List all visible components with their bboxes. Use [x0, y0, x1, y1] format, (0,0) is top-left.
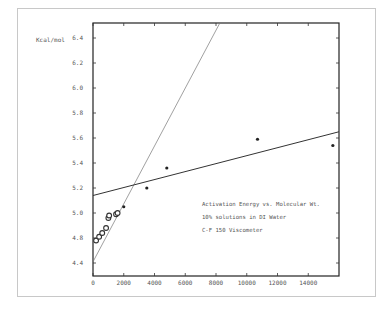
x-tick-label: 2000 [117, 279, 132, 286]
steep-fit-line [93, 23, 220, 262]
y-tick-label: 6.2 [72, 59, 83, 66]
x-tick-label: 12000 [268, 279, 286, 286]
y-tick-label: 5.6 [72, 134, 83, 141]
x-tick-label: 6000 [178, 279, 193, 286]
x-tick-label: 8000 [209, 279, 224, 286]
open-circle-point [107, 213, 112, 218]
open-circle-point [115, 211, 120, 216]
open-circle-point [104, 226, 109, 231]
filled-point [331, 144, 334, 147]
filled-point [165, 166, 168, 169]
annotation-line-3: C-F 150 Viscometer [202, 227, 263, 233]
y-tick-label: 4.4 [72, 259, 83, 266]
y-axis-label: Kcal/mol [36, 36, 65, 43]
x-tick-label: 14000 [299, 279, 317, 286]
filled-point [256, 138, 259, 141]
y-tick-label: 5.2 [72, 184, 83, 191]
shallow-fit-line [93, 132, 339, 196]
y-tick-label: 5.4 [72, 159, 83, 166]
y-tick-label: 4.8 [72, 234, 83, 241]
x-tick-label: 4000 [147, 279, 162, 286]
filled-point [122, 205, 125, 208]
x-axis: 02000400060008000100001200014000 [91, 23, 317, 286]
chart: 02000400060008000100001200014000 4.44.85… [0, 0, 392, 313]
x-tick-label: 10000 [238, 279, 256, 286]
annotation-line-1: Activation Energy vs. Molecular Wt. [202, 201, 320, 208]
y-tick-label: 6.0 [72, 84, 83, 91]
y-tick-label: 6.4 [72, 34, 83, 41]
y-tick-label: 5.0 [72, 209, 83, 216]
filled-point [145, 186, 148, 189]
annotation-line-2: 10% solutions in DI Water [202, 214, 287, 220]
fit-lines [93, 23, 339, 262]
y-tick-label: 5.8 [72, 109, 83, 116]
plot-area-border [93, 23, 339, 276]
open-circle-point [100, 231, 105, 236]
x-tick-label: 0 [91, 279, 95, 286]
